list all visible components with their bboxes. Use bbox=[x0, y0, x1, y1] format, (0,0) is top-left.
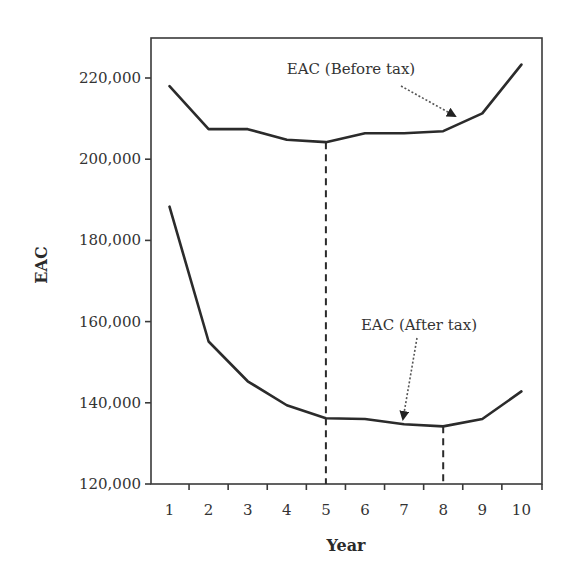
reference-lines bbox=[326, 142, 443, 484]
x-tick-label: 1 bbox=[165, 501, 175, 519]
x-axis: 12345678910 bbox=[165, 484, 542, 519]
chart-canvas: 220,000200,000180,000160,000140,000120,0… bbox=[0, 0, 573, 579]
y-tick-label: 120,000 bbox=[79, 475, 141, 493]
y-axis-title: EAC bbox=[32, 246, 51, 283]
x-tick-label: 8 bbox=[438, 501, 448, 519]
y-tick-label: 220,000 bbox=[79, 69, 141, 87]
annotation-after-tax: EAC (After tax) bbox=[361, 316, 477, 334]
x-tick-label: 2 bbox=[204, 501, 214, 519]
after-tax-arrow-icon bbox=[403, 338, 417, 419]
y-tick-label: 180,000 bbox=[79, 231, 141, 249]
annotations bbox=[401, 86, 455, 419]
x-tick-label: 3 bbox=[243, 501, 253, 519]
y-tick-label: 140,000 bbox=[79, 394, 141, 412]
y-axis: 220,000200,000180,000160,000140,000120,0… bbox=[79, 69, 151, 493]
eac-line-chart: 220,000200,000180,000160,000140,000120,0… bbox=[0, 0, 573, 579]
x-tick-label: 7 bbox=[399, 501, 409, 519]
y-tick-label: 200,000 bbox=[79, 150, 141, 168]
x-tick-label: 6 bbox=[360, 501, 370, 519]
before-tax-arrow-icon bbox=[401, 86, 455, 116]
series-lines bbox=[170, 65, 522, 427]
x-tick-label: 10 bbox=[512, 501, 531, 519]
annotation-before-tax: EAC (Before tax) bbox=[287, 60, 415, 78]
x-tick-label: 5 bbox=[321, 501, 331, 519]
x-axis-title: Year bbox=[325, 536, 366, 555]
x-tick-label: 9 bbox=[478, 501, 488, 519]
x-tick-label: 4 bbox=[282, 501, 292, 519]
y-tick-label: 160,000 bbox=[79, 313, 141, 331]
